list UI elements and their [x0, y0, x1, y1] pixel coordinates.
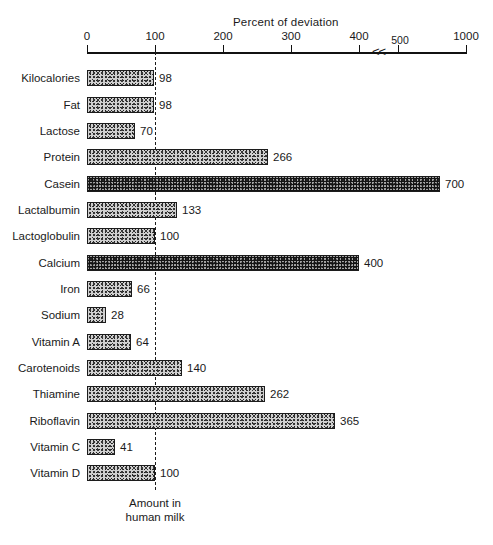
bar-riboflavin	[87, 413, 335, 429]
x-tick-label: 200	[213, 30, 232, 42]
y-category-label: Riboflavin	[0, 415, 80, 427]
y-category-label: Vitamin C	[0, 441, 80, 453]
bar-vitamin-a	[87, 334, 131, 350]
y-category-label: Vitamin D	[0, 467, 80, 479]
y-category-label: Thiamine	[0, 388, 80, 400]
bar-value-label: 98	[159, 72, 172, 84]
x-tick-label: 100	[145, 30, 164, 42]
y-category-label: Carotenoids	[0, 362, 80, 374]
bar-sodium	[87, 307, 106, 323]
bar-iron	[87, 281, 132, 297]
bar-value-label: 100	[160, 467, 179, 479]
axis-break-icon: <<	[372, 44, 385, 59]
y-category-label: Lactoglobulin	[0, 230, 80, 242]
y-category-label: Iron	[0, 283, 80, 295]
bar-thiamine	[87, 386, 265, 402]
bar-value-label: 365	[340, 415, 359, 427]
bar-value-label: 266	[273, 151, 292, 163]
x-tick-label: 500	[391, 34, 409, 46]
bar-value-label: 140	[187, 362, 206, 374]
bar-value-label: 28	[111, 309, 124, 321]
bar-lactose	[87, 123, 135, 139]
y-category-label: Vitamin A	[0, 336, 80, 348]
y-category-label: Sodium	[0, 309, 80, 321]
deviation-bar-chart: Percent of deviation << 0 100 200 300 40…	[0, 0, 493, 545]
bar-lactoglobulin	[87, 228, 155, 244]
x-tick-label: 0	[84, 30, 90, 42]
x-tick-mark	[398, 45, 399, 53]
x-tick-label: 300	[281, 30, 300, 42]
x-tick-mark	[87, 45, 88, 53]
bar-value-label: 66	[137, 283, 150, 295]
bar-fat	[87, 97, 154, 113]
x-axis-line	[87, 52, 467, 54]
x-tick-mark	[223, 45, 224, 53]
x-tick-mark	[466, 45, 467, 53]
bar-calcium	[87, 255, 359, 271]
bar-protein	[87, 149, 268, 165]
reference-caption-line1: Amount in	[126, 496, 185, 510]
y-category-label: Lactose	[0, 125, 80, 137]
bar-lactalbumin	[87, 202, 177, 218]
y-category-label: Kilocalories	[0, 72, 80, 84]
reference-caption-line2: human milk	[126, 510, 185, 524]
bar-value-label: 70	[140, 125, 153, 137]
bar-value-label: 64	[136, 336, 149, 348]
bar-carotenoids	[87, 360, 182, 376]
y-category-label: Fat	[0, 99, 80, 111]
bar-vitamin-c	[87, 439, 115, 455]
bar-value-label: 41	[120, 441, 133, 453]
bar-kilocalories	[87, 70, 154, 86]
bar-value-label: 262	[270, 388, 289, 400]
x-axis-title: Percent of deviation	[233, 16, 339, 28]
bar-vitamin-d	[87, 465, 155, 481]
x-tick-mark	[359, 45, 360, 53]
y-category-label: Casein	[0, 178, 80, 190]
x-tick-label: 400	[349, 30, 368, 42]
bar-casein	[87, 176, 440, 192]
reference-line-caption: Amount in human milk	[126, 496, 185, 524]
bar-value-label: 98	[159, 99, 172, 111]
y-category-label: Lactalbumin	[0, 204, 80, 216]
x-tick-label: 1000	[453, 30, 479, 42]
bar-value-label: 133	[182, 204, 201, 216]
y-category-label: Protein	[0, 151, 80, 163]
bar-value-label: 700	[445, 178, 464, 190]
bar-value-label: 400	[364, 257, 383, 269]
x-tick-mark	[291, 45, 292, 53]
y-category-label: Calcium	[0, 257, 80, 269]
bar-value-label: 100	[160, 230, 179, 242]
